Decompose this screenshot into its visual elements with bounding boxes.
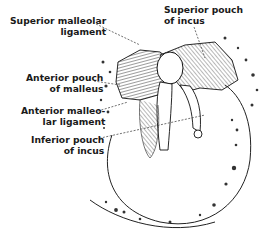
- label-line: Superior pouch: [164, 5, 243, 16]
- label-line: of malleus: [26, 84, 103, 95]
- label-line: Inferior pouch: [31, 135, 104, 146]
- label-line: of incus: [164, 16, 243, 27]
- label-line: of incus: [31, 146, 104, 157]
- label-superior-malleolar-ligament: Superior malleolar ligament: [10, 16, 106, 37]
- label-line: ligament: [10, 27, 106, 38]
- label-superior-pouch-of-incus: Superior pouch of incus: [164, 5, 243, 26]
- label-line: Anterior malleo-: [21, 106, 105, 117]
- ossicles: [116, 42, 238, 158]
- label-anterior-malleolar-ligament: Anterior malleo- lar ligament: [21, 106, 105, 127]
- label-line: lar ligament: [21, 117, 105, 128]
- label-line: Superior malleolar: [10, 16, 106, 27]
- label-anterior-pouch-of-malleus: Anterior pouch of malleus: [26, 73, 103, 94]
- label-line: Anterior pouch: [26, 73, 103, 84]
- label-inferior-pouch-of-incus: Inferior pouch of incus: [31, 135, 104, 156]
